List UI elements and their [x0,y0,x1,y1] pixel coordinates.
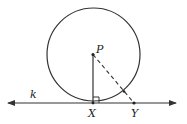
label-p: P [95,43,104,56]
label-k: k [30,88,37,101]
point-p [91,53,94,56]
point-x [92,102,95,105]
segment-py-dashed [93,55,134,104]
label-x: X [87,107,97,120]
point-y [132,101,135,104]
geometry-diagram: P X Y k [0,0,187,124]
label-y: Y [131,107,140,120]
point-intersection [123,90,125,92]
